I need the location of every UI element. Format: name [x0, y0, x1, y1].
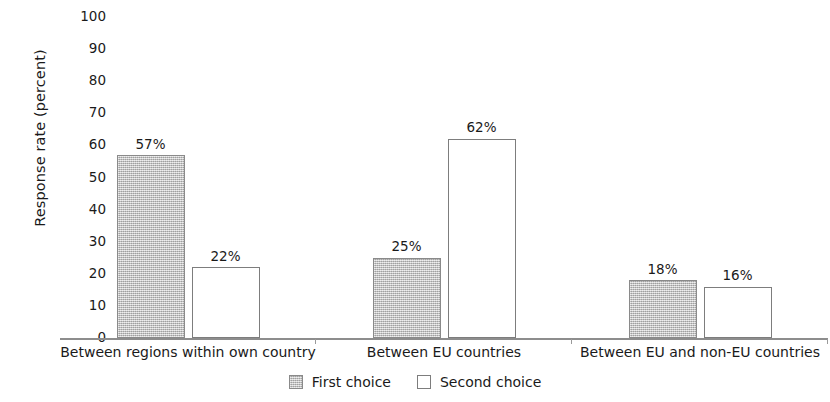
bar-value-label: 25%	[391, 240, 421, 254]
x-axis-category-label: Between EU countries	[367, 345, 521, 359]
chart-legend: First choice Second choice	[0, 375, 830, 389]
x-axis-tick	[571, 339, 572, 344]
x-axis-category-label: Between regions within own country	[60, 345, 316, 359]
x-axis-line	[60, 338, 828, 340]
legend-item-second-choice: Second choice	[417, 375, 541, 389]
legend-item-first-choice: First choice	[289, 375, 391, 389]
bar-second-choice: 16%	[704, 287, 772, 338]
x-axis-tick	[827, 339, 828, 344]
legend-label-first-choice: First choice	[312, 375, 391, 389]
bar-first-choice: 18%	[629, 280, 697, 338]
legend-swatch-second-choice-icon	[417, 375, 431, 389]
bar-chart: Response rate (percent) 1009080706050403…	[0, 0, 830, 402]
bar-second-choice: 62%	[448, 139, 516, 338]
bar-value-label: 22%	[210, 250, 240, 264]
bar-second-choice: 22%	[192, 267, 260, 338]
plot-area: 57%22%25%62%18%16%	[60, 17, 828, 338]
bar-first-choice: 25%	[373, 258, 441, 338]
legend-label-second-choice: Second choice	[440, 375, 541, 389]
bar-value-label: 16%	[722, 269, 752, 283]
y-axis-title: Response rate (percent)	[32, 8, 48, 268]
bar-value-label: 18%	[647, 263, 677, 277]
bar-value-label: 62%	[466, 121, 496, 135]
bar-value-label: 57%	[135, 138, 165, 152]
legend-swatch-first-choice-icon	[289, 375, 303, 389]
x-axis-category-label: Between EU and non-EU countries	[580, 345, 820, 359]
bar-first-choice: 57%	[117, 155, 185, 338]
